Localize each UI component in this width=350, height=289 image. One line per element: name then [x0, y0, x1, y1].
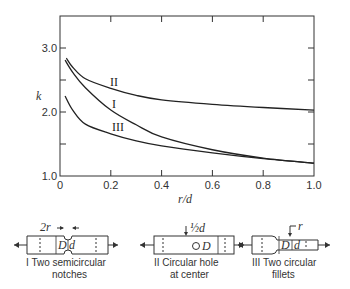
- y-tick-label: 2.0: [42, 106, 57, 118]
- y-tick-labels: 1.02.03.0: [42, 42, 57, 182]
- x-tick-label: 1.0: [306, 179, 321, 191]
- svg-text:at center: at center: [170, 269, 210, 280]
- x-tick-label: 0: [57, 179, 63, 191]
- svg-text:II Circular hole: II Circular hole: [154, 257, 219, 268]
- svg-text:d: d: [294, 238, 301, 252]
- y-tick-label: 1.0: [42, 170, 57, 182]
- svg-text:fillets: fillets: [272, 269, 295, 280]
- x-tick-label: 0.6: [205, 179, 220, 191]
- y-tick-label: 3.0: [42, 42, 57, 54]
- svg-text:d: d: [69, 238, 76, 252]
- x-axis-label: r/d: [178, 192, 193, 206]
- diagram-semicircular-notches: 2r D d I Two semicircular notches: [14, 220, 118, 280]
- arrow-right-icon: [113, 242, 118, 248]
- curve-II: [66, 58, 314, 110]
- arrow-left-icon: [238, 242, 243, 248]
- x-tick-label: 0.4: [154, 179, 169, 191]
- svg-text:I Two semicircular: I Two semicircular: [26, 257, 107, 268]
- x-tick-labels: 00.20.40.60.81.0: [57, 179, 322, 191]
- curve-label-III: III: [112, 120, 124, 134]
- svg-text:D: D: [57, 238, 67, 252]
- curve-I: [65, 60, 314, 163]
- svg-text:notches: notches: [52, 269, 87, 280]
- diagram-circular-fillets: r D d III Two circular fillets: [238, 219, 330, 280]
- svg-text:r: r: [298, 219, 303, 233]
- curves: [65, 58, 314, 163]
- curve-label-I: I: [112, 97, 116, 111]
- y-axis-label: k: [36, 89, 42, 103]
- arrow-left-icon: [14, 242, 19, 248]
- svg-text:D: D: [201, 239, 211, 253]
- x-tick-label: 0.2: [103, 179, 118, 191]
- svg-text:III Two circular: III Two circular: [252, 257, 317, 268]
- svg-text:½d: ½d: [190, 221, 206, 235]
- svg-text:2r: 2r: [40, 220, 51, 234]
- svg-text:D: D: [280, 238, 290, 252]
- x-tick-label: 0.8: [256, 179, 271, 191]
- stress-concentration-chart: 00.20.40.60.81.0 1.02.03.0 k r/d II I II…: [0, 0, 350, 289]
- curve-III: [65, 96, 314, 163]
- arrow-left-icon: [140, 242, 145, 248]
- curve-label-II: II: [110, 75, 118, 89]
- diagram-circular-hole: ½d D II Circular hole at center: [140, 221, 244, 280]
- arrow-right-icon: [325, 242, 330, 248]
- axis-ticks: [60, 16, 314, 176]
- plot-frame: [60, 16, 314, 176]
